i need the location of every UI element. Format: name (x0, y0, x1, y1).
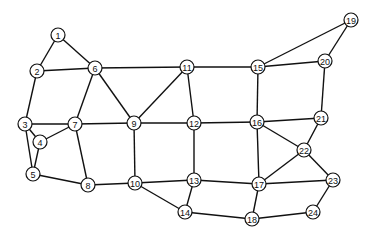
node-2: 2 (30, 64, 44, 78)
node-4: 4 (33, 135, 47, 149)
node-10: 10 (128, 176, 142, 190)
node-12: 12 (187, 116, 201, 130)
edge-12-16 (194, 122, 257, 123)
node-11: 11 (180, 60, 194, 74)
node-label: 7 (72, 120, 77, 130)
node-label: 9 (131, 119, 136, 129)
edge-14-18 (185, 212, 252, 219)
node-label: 15 (253, 63, 263, 73)
node-label: 20 (320, 57, 330, 67)
node-24: 24 (306, 205, 320, 219)
node-label: 6 (92, 64, 97, 74)
edge-10-13 (135, 180, 194, 183)
node-label: 19 (346, 16, 356, 26)
node-8: 8 (81, 178, 95, 192)
node-label: 8 (85, 181, 90, 191)
edge-6-7 (75, 68, 95, 124)
edge-9-10 (134, 123, 135, 183)
node-22: 22 (297, 143, 311, 157)
edge-17-23 (259, 180, 333, 184)
node-17: 17 (252, 177, 266, 191)
node-label: 1 (55, 31, 60, 41)
node-label: 3 (22, 120, 27, 130)
node-label: 22 (299, 146, 309, 156)
node-3: 3 (18, 117, 32, 131)
graph-diagram: 123456789101112131415161718192021222324 (0, 0, 370, 239)
node-16: 16 (250, 115, 264, 129)
node-21: 21 (314, 111, 328, 125)
node-5: 5 (26, 167, 40, 181)
edge-20-21 (321, 61, 325, 118)
edge-15-19 (258, 20, 351, 67)
node-6: 6 (88, 61, 102, 75)
node-14: 14 (178, 205, 192, 219)
node-15: 15 (251, 60, 265, 74)
node-13: 13 (187, 173, 201, 187)
edge-5-8 (33, 174, 88, 185)
edge-6-11 (95, 67, 187, 68)
node-label: 17 (254, 180, 264, 190)
node-1: 1 (51, 28, 65, 42)
edge-16-17 (257, 122, 259, 184)
edge-16-21 (257, 118, 321, 122)
node-7: 7 (68, 117, 82, 131)
edge-16-22 (257, 122, 304, 150)
node-20: 20 (318, 54, 332, 68)
edge-18-24 (252, 212, 313, 219)
edge-7-9 (75, 123, 134, 124)
edge-2-6 (37, 68, 95, 71)
node-9: 9 (127, 116, 141, 130)
edge-6-9 (95, 68, 134, 123)
node-19: 19 (344, 13, 358, 27)
node-label: 16 (252, 118, 262, 128)
node-label: 13 (189, 176, 199, 186)
node-label: 4 (37, 138, 42, 148)
node-label: 2 (34, 67, 39, 77)
node-18: 18 (245, 212, 259, 226)
node-label: 21 (316, 114, 326, 124)
node-label: 23 (328, 176, 338, 186)
edge-15-16 (257, 67, 258, 122)
node-label: 5 (30, 170, 35, 180)
node-23: 23 (326, 173, 340, 187)
node-label: 18 (247, 215, 257, 225)
edge-9-11 (134, 67, 187, 123)
node-label: 11 (182, 63, 191, 73)
edge-11-12 (187, 67, 194, 123)
node-label: 12 (189, 119, 199, 129)
edge-22-17 (259, 150, 304, 184)
node-label: 14 (180, 208, 190, 218)
edge-7-8 (75, 124, 88, 185)
node-label: 10 (130, 179, 140, 189)
edge-13-17 (194, 180, 259, 184)
edge-2-3 (25, 71, 37, 124)
node-label: 24 (308, 208, 318, 218)
edge-10-14 (135, 183, 185, 212)
